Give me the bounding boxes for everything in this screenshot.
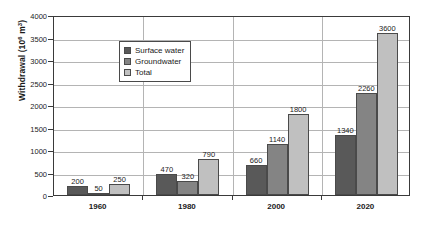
y-axis-tick-label: 1000 — [7, 147, 47, 156]
legend: Surface waterGroundwaterTotal — [119, 41, 191, 82]
bar-value-label: 250 — [113, 175, 126, 184]
x-axis-tick-mark — [142, 196, 143, 200]
legend-label: Groundwater — [135, 57, 181, 66]
legend-swatch-icon — [124, 47, 131, 54]
bar[interactable]: 470 — [156, 174, 177, 195]
y-axis-title-text: Withdrawal (10 — [17, 40, 27, 101]
bar-group: 66011401800 — [233, 17, 322, 195]
x-axis-tick-label-1980: 1980 — [178, 202, 196, 211]
bar[interactable]: 1140 — [267, 144, 288, 195]
y-axis-tick-mark — [48, 196, 53, 197]
legend-label: Surface water — [135, 46, 184, 55]
legend-label: Total — [135, 68, 152, 77]
legend-swatch-icon — [124, 69, 131, 76]
bar[interactable]: 1340 — [335, 135, 356, 195]
bar[interactable]: 660 — [246, 165, 267, 195]
bar-value-label: 790 — [203, 150, 216, 159]
bar-value-label: 1340 — [337, 126, 354, 135]
bar-value-label: 2260 — [358, 84, 375, 93]
y-axis-tick-label: 2500 — [7, 79, 47, 88]
x-axis-tick-label-2000: 2000 — [267, 202, 285, 211]
bar[interactable]: 200 — [67, 186, 88, 195]
y-axis-tick-label: 3000 — [7, 57, 47, 66]
legend-swatch-icon — [124, 58, 131, 65]
bar-group: 134022603600 — [322, 17, 411, 195]
legend-item[interactable]: Groundwater — [124, 56, 184, 67]
bar[interactable]: 790 — [198, 159, 219, 195]
bar[interactable]: 1800 — [288, 114, 309, 195]
bar[interactable]: 3600 — [377, 33, 398, 195]
x-axis-tick-mark — [232, 196, 233, 200]
bar-value-label: 320 — [182, 172, 195, 181]
bar-value-label: 1140 — [269, 135, 285, 144]
legend-item[interactable]: Surface water — [124, 45, 184, 56]
bar[interactable]: 250 — [109, 184, 130, 195]
x-axis-tick-label-1960: 1960 — [89, 202, 107, 211]
bar-value-label: 3600 — [379, 24, 396, 33]
y-axis-tick-label: 500 — [7, 169, 47, 178]
bar[interactable]: 50 — [88, 193, 109, 195]
bar-value-label: 1800 — [290, 105, 307, 114]
bar-value-label: 50 — [94, 184, 102, 193]
bar-value-label: 470 — [161, 165, 174, 174]
x-axis-tick-mark — [321, 196, 322, 200]
y-axis-tick-label: 0 — [7, 192, 47, 201]
x-axis-tick-label-2020: 2020 — [356, 202, 374, 211]
bar[interactable]: 320 — [177, 181, 198, 195]
y-axis-tick-label: 3500 — [7, 34, 47, 43]
bar-chart-figure: Withdrawal (106 m3) 05001000150020002500… — [0, 0, 421, 227]
y-axis-tick-label: 4000 — [7, 12, 47, 21]
y-axis-title-unit-exponent: 3 — [17, 23, 23, 26]
y-axis-tick-label: 2000 — [7, 102, 47, 111]
plot-area: 2005025047032079066011401800134022603600… — [53, 16, 410, 196]
y-axis-tick-label: 1500 — [7, 124, 47, 133]
bar[interactable]: 2260 — [356, 93, 377, 195]
legend-item[interactable]: Total — [124, 67, 184, 78]
bar-value-label: 200 — [71, 177, 84, 186]
bar-value-label: 660 — [250, 156, 263, 165]
